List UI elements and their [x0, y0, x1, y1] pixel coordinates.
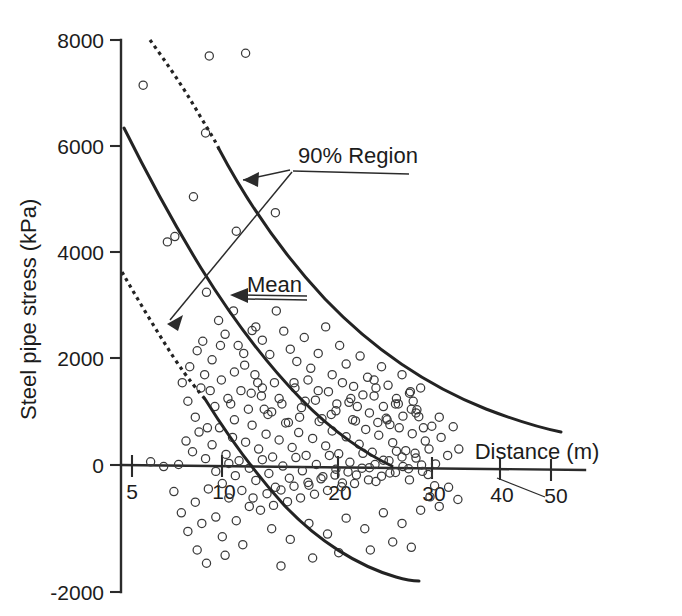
data-point — [409, 397, 417, 405]
data-point — [310, 490, 318, 498]
data-point — [295, 428, 303, 436]
data-point — [344, 468, 352, 476]
lower-90-bound-dashed — [122, 272, 205, 399]
data-point — [182, 437, 190, 445]
data-point — [359, 391, 367, 399]
x-tick-label-20: 20 — [328, 481, 351, 504]
data-point — [411, 449, 419, 457]
data-point — [395, 424, 403, 432]
data-point — [435, 413, 443, 421]
data-point — [399, 462, 407, 470]
data-point — [222, 450, 230, 458]
data-point — [311, 396, 319, 404]
x-axis-title: Distance (m) — [475, 439, 600, 464]
data-point — [328, 371, 336, 379]
data-point — [322, 442, 330, 450]
data-point — [398, 371, 406, 379]
data-point — [203, 424, 211, 432]
data-point — [230, 416, 238, 424]
data-point — [178, 379, 186, 387]
data-point — [417, 506, 425, 514]
data-point — [266, 350, 274, 358]
region-underline — [293, 171, 409, 174]
data-point — [231, 472, 239, 480]
data-point — [270, 379, 278, 387]
data-point — [212, 467, 220, 475]
data-point — [300, 333, 308, 341]
data-point — [309, 554, 317, 562]
data-point — [258, 336, 266, 344]
region-label: 90% Region — [298, 143, 418, 168]
data-point — [272, 307, 280, 315]
data-point — [391, 468, 399, 476]
data-point — [186, 363, 194, 371]
data-point — [201, 129, 209, 137]
data-point — [290, 482, 298, 490]
data-point — [377, 363, 385, 371]
mean-underline — [247, 299, 307, 300]
data-point — [346, 458, 354, 466]
data-point — [444, 451, 452, 459]
annotation-mean: Mean — [230, 272, 307, 303]
data-point — [296, 494, 304, 502]
data-point — [325, 451, 333, 459]
data-point — [201, 455, 209, 463]
data-point — [255, 445, 263, 453]
data-point — [242, 438, 250, 446]
data-point — [247, 389, 255, 397]
data-point — [218, 533, 226, 541]
data-point — [399, 412, 407, 420]
data-point — [398, 519, 406, 527]
data-point — [240, 349, 248, 357]
data-point — [353, 402, 361, 410]
data-point — [277, 562, 285, 570]
data-point — [258, 384, 266, 392]
data-point — [198, 519, 206, 527]
data-point — [389, 439, 397, 447]
data-point — [454, 495, 462, 503]
data-point — [195, 428, 203, 436]
data-point — [292, 453, 300, 461]
data-point — [392, 394, 400, 402]
data-point — [221, 551, 229, 559]
data-point — [242, 49, 250, 57]
y-tick-label-0: 0 — [92, 454, 104, 477]
data-point — [428, 422, 436, 430]
data-point — [361, 525, 369, 533]
data-point — [244, 405, 252, 413]
data-point — [237, 387, 245, 395]
y-tick-label-6000: 6000 — [57, 135, 104, 158]
data-point — [230, 368, 238, 376]
data-point — [352, 471, 360, 479]
data-point — [374, 418, 382, 426]
y-tick-label-8000: 8000 — [57, 29, 104, 52]
mean-arrowhead — [230, 288, 248, 303]
data-point — [271, 209, 279, 217]
data-point — [208, 356, 216, 364]
data-point — [163, 238, 171, 246]
data-point — [171, 232, 179, 240]
data-point — [307, 364, 315, 372]
data-point — [254, 379, 262, 387]
data-point — [265, 469, 273, 477]
data-point — [177, 509, 185, 517]
data-point — [191, 413, 199, 421]
data-point — [214, 316, 222, 324]
data-point — [248, 421, 256, 429]
x-tick-label-5: 5 — [126, 480, 138, 503]
data-point — [256, 506, 264, 514]
data-point — [342, 514, 350, 522]
data-point — [258, 456, 266, 464]
data-point — [184, 397, 192, 405]
data-point — [249, 494, 257, 502]
data-point — [285, 474, 293, 482]
data-point — [322, 323, 330, 331]
y-axis: 8000 6000 4000 2000 0 -2000 Steel pipe s… — [16, 29, 121, 604]
data-point — [189, 193, 197, 201]
data-point — [202, 288, 210, 296]
data-point — [257, 392, 265, 400]
data-point — [262, 430, 270, 438]
y-tick-label-4000: 4000 — [57, 241, 104, 264]
data-point — [398, 453, 406, 461]
data-point — [338, 379, 346, 387]
